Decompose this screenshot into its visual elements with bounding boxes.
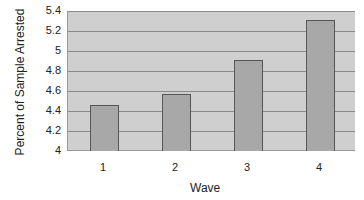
bar-wave-2 xyxy=(162,94,191,151)
y-tick-label: 5.2 xyxy=(21,25,61,36)
y-tick-label: 4.4 xyxy=(21,105,61,116)
x-tick-label: 3 xyxy=(237,161,257,173)
y-tick-label: 5 xyxy=(21,45,61,56)
gridline xyxy=(68,11,355,12)
bar-wave-4 xyxy=(306,20,335,151)
y-tick-label: 4.6 xyxy=(21,85,61,96)
y-tick-label: 4.2 xyxy=(21,125,61,136)
bar-wave-3 xyxy=(234,60,263,151)
y-tick-label: 4.8 xyxy=(21,65,61,76)
x-tick-label: 2 xyxy=(165,161,185,173)
x-axis-label: Wave xyxy=(190,181,220,195)
y-tick-label: 4 xyxy=(21,145,61,156)
plot-area xyxy=(67,11,355,151)
bar-wave-1 xyxy=(90,105,119,151)
x-tick-label: 1 xyxy=(93,161,113,173)
y-tick-label: 5.4 xyxy=(21,5,61,16)
x-tick-label: 4 xyxy=(309,161,329,173)
